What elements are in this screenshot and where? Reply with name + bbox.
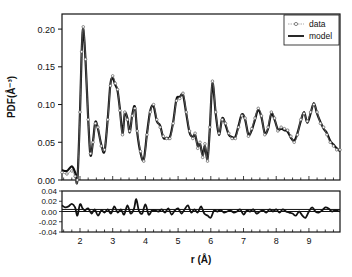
residual-y-tick-label: 0.00 (41, 208, 57, 217)
data-point (74, 175, 77, 178)
data-point (61, 171, 64, 174)
residual-plot-area (62, 199, 340, 218)
data-point (214, 111, 217, 114)
residual-line (62, 199, 340, 218)
data-point (339, 149, 342, 152)
y-tick-label: 0.15 (37, 62, 55, 72)
data-point (121, 133, 124, 136)
data-point (247, 135, 250, 138)
y-tick-label: 0.00 (37, 176, 55, 186)
data-point (185, 111, 188, 114)
data-point (250, 127, 253, 130)
legend-data-marker (294, 22, 297, 25)
legend-data-label: data (309, 19, 326, 29)
data-point (103, 149, 106, 152)
data-point (165, 137, 168, 140)
x-tick-label: 7 (241, 236, 246, 246)
data-point (87, 118, 90, 121)
data-point (82, 26, 85, 29)
data-point (175, 99, 178, 102)
data-point (277, 130, 280, 133)
data-point (224, 122, 227, 125)
data-point (309, 111, 312, 114)
x-tick-label: 8 (274, 236, 279, 246)
data-point (299, 118, 302, 121)
data-point (316, 111, 319, 114)
residual-y-tick-label: -0.02 (39, 218, 58, 227)
data-point (241, 115, 244, 118)
residual-y-tick-label: 0.02 (41, 197, 57, 206)
data-point (257, 107, 260, 110)
data-point (124, 111, 127, 114)
data-point (89, 152, 92, 155)
data-point (111, 75, 114, 78)
data-point (192, 137, 195, 140)
data-point (182, 92, 185, 95)
series-data-line (62, 27, 340, 184)
x-tick-label: 4 (143, 236, 148, 246)
data-point (254, 117, 257, 120)
data-point (114, 82, 117, 85)
data-point (286, 129, 289, 132)
data-point (80, 50, 83, 53)
pdf-chart: 0.000.050.100.150.20 -0.04-0.020.000.020… (0, 0, 352, 277)
data-point (211, 80, 214, 83)
data-point (209, 126, 212, 129)
data-point (156, 118, 159, 121)
data-point (228, 132, 231, 135)
data-point (296, 133, 299, 136)
data-point (188, 130, 191, 133)
data-point (84, 58, 87, 61)
data-point (116, 88, 119, 91)
data-point (263, 133, 266, 136)
x-axis-title: r (Å) (191, 253, 212, 265)
data-point (231, 137, 234, 140)
data-point (237, 126, 240, 129)
data-point (319, 122, 322, 125)
data-point (204, 142, 207, 145)
data-point (109, 84, 112, 87)
data-point (234, 137, 237, 140)
residual-y-axis: -0.04-0.020.000.020.04 (39, 187, 62, 237)
main-plot-area (61, 26, 342, 185)
data-point (136, 130, 139, 133)
data-point (146, 133, 149, 136)
x-tick-label: 3 (110, 236, 115, 246)
data-point (79, 111, 82, 114)
x-tick-label: 6 (208, 236, 213, 246)
main-x-axis-ticks (64, 176, 334, 180)
legend: data model (284, 15, 339, 45)
data-point (159, 126, 162, 129)
data-point (326, 133, 329, 136)
y-axis-title: PDF(Å⁻³) (5, 76, 17, 118)
data-point (119, 109, 122, 112)
data-point (260, 115, 263, 118)
data-point (194, 132, 197, 135)
data-point (131, 115, 134, 118)
main-y-axis: 0.000.050.100.150.20 (37, 25, 62, 186)
data-point (273, 117, 276, 120)
residual-y-tick-label: -0.04 (39, 228, 58, 237)
data-point (149, 111, 152, 114)
data-point (178, 97, 181, 100)
data-point (169, 137, 172, 140)
data-point (199, 141, 202, 144)
data-point (329, 141, 332, 144)
data-point (126, 118, 129, 121)
data-point (92, 141, 95, 144)
y-tick-label: 0.20 (37, 25, 55, 35)
x-tick-label: 9 (306, 236, 311, 246)
data-point (76, 179, 79, 182)
data-point (218, 132, 221, 135)
residual-y-tick-label: 0.04 (41, 187, 57, 196)
data-point (290, 135, 293, 138)
data-point (332, 145, 335, 148)
data-point (322, 126, 325, 129)
series-model-line (62, 29, 340, 183)
data-point (152, 103, 155, 106)
data-point (267, 126, 270, 129)
data-point (206, 160, 209, 163)
data-point (196, 147, 199, 150)
data-point (293, 141, 296, 144)
x-tick-label: 2 (77, 236, 82, 246)
